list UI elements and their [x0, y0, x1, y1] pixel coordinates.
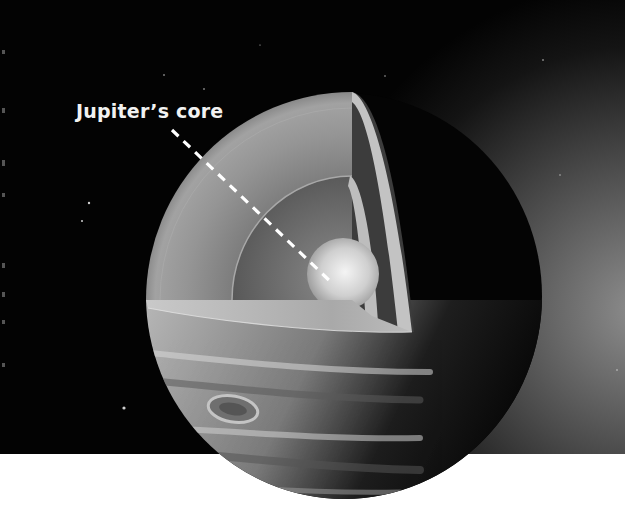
- jupiter-cutaway-illustration: [0, 0, 625, 531]
- jupiter-core: [307, 238, 379, 310]
- core-label: Jupiter’s core: [76, 100, 223, 122]
